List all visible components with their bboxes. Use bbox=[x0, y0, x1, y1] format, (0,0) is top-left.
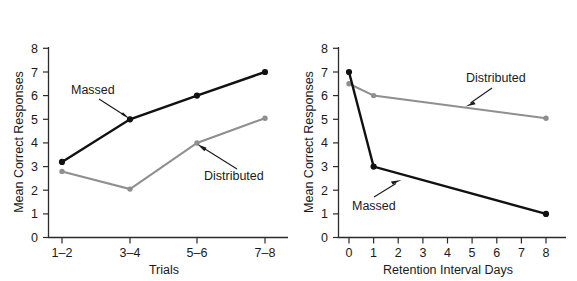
right-xtick-2: 2 bbox=[395, 246, 402, 260]
right-ytick-6: 6 bbox=[321, 89, 328, 103]
right-xtick-1: 1 bbox=[370, 246, 377, 260]
left-ytick-0: 0 bbox=[31, 231, 38, 245]
right-xtick-0: 0 bbox=[346, 246, 353, 260]
left-ytick-8: 8 bbox=[31, 42, 38, 56]
left-ytick-4: 4 bbox=[31, 136, 38, 150]
figure-container: 0 1 2 3 4 5 6 7 8 1–2 3–4 5–6 7–8 Trials… bbox=[0, 0, 577, 281]
left-x-axis-title: Trials bbox=[149, 263, 179, 277]
right-xtick-4: 4 bbox=[444, 246, 451, 260]
right-ytick-1: 1 bbox=[321, 207, 328, 221]
right-y-axis-title: Mean Correct Responses bbox=[302, 71, 316, 213]
left-annotation-massed-label: Massed bbox=[71, 83, 115, 97]
left-xtick-2: 5–6 bbox=[187, 246, 208, 260]
left-y-axis-title: Mean Correct Responses bbox=[12, 71, 26, 213]
figure-background bbox=[0, 0, 577, 281]
right-annotation-distributed-label: Distributed bbox=[466, 71, 526, 85]
left-ytick-2: 2 bbox=[31, 184, 38, 198]
left-xtick-1: 3–4 bbox=[120, 246, 141, 260]
right-ytick-3: 3 bbox=[321, 160, 328, 174]
left-ytick-5: 5 bbox=[31, 113, 38, 127]
left-ytick-7: 7 bbox=[31, 66, 38, 80]
right-ytick-7: 7 bbox=[321, 66, 328, 80]
left-ytick-3: 3 bbox=[31, 160, 38, 174]
right-xtick-3: 3 bbox=[419, 246, 426, 260]
right-ytick-2: 2 bbox=[321, 184, 328, 198]
left-xtick-0: 1–2 bbox=[52, 246, 73, 260]
right-ytick-8: 8 bbox=[321, 42, 328, 56]
right-annotation-massed-label: Massed bbox=[352, 199, 396, 213]
right-ytick-5: 5 bbox=[321, 113, 328, 127]
left-annotation-distributed-label: Distributed bbox=[204, 169, 264, 183]
right-xtick-5: 5 bbox=[469, 246, 476, 260]
left-ytick-6: 6 bbox=[31, 89, 38, 103]
right-xtick-6: 6 bbox=[493, 246, 500, 260]
right-x-axis-title: Retention Interval Days bbox=[383, 263, 513, 277]
right-xtick-8: 8 bbox=[543, 246, 550, 260]
right-xtick-7: 7 bbox=[518, 246, 525, 260]
left-xtick-3: 7–8 bbox=[255, 246, 276, 260]
left-ytick-1: 1 bbox=[31, 207, 38, 221]
right-ytick-0: 0 bbox=[321, 231, 328, 245]
right-ytick-4: 4 bbox=[321, 136, 328, 150]
